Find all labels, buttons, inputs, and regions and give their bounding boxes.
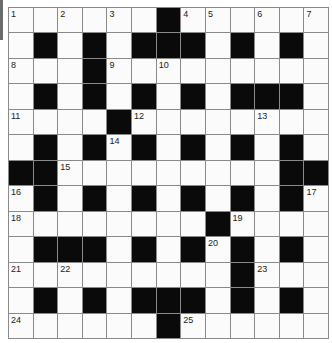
answer-cell[interactable] [304, 135, 328, 159]
answer-cell[interactable]: 7 [304, 8, 328, 32]
answer-cell[interactable]: 18 [9, 212, 33, 236]
answer-cell[interactable] [157, 212, 181, 236]
answer-cell[interactable] [107, 84, 131, 108]
answer-cell[interactable]: 17 [304, 186, 328, 210]
answer-cell[interactable] [132, 263, 156, 287]
answer-cell[interactable] [280, 212, 304, 236]
answer-cell[interactable]: 24 [9, 314, 33, 338]
answer-cell[interactable] [206, 84, 230, 108]
answer-cell[interactable] [231, 314, 255, 338]
answer-cell[interactable] [181, 59, 205, 83]
answer-cell[interactable] [280, 263, 304, 287]
answer-cell[interactable] [58, 33, 82, 57]
answer-cell[interactable] [157, 135, 181, 159]
answer-cell[interactable] [58, 288, 82, 312]
answer-cell[interactable]: 11 [9, 110, 33, 134]
answer-cell[interactable] [304, 263, 328, 287]
answer-cell[interactable] [34, 59, 58, 83]
answer-cell[interactable] [157, 161, 181, 185]
answer-cell[interactable] [255, 135, 279, 159]
answer-cell[interactable] [280, 59, 304, 83]
answer-cell[interactable] [157, 186, 181, 210]
answer-cell[interactable] [132, 8, 156, 32]
answer-cell[interactable] [255, 161, 279, 185]
answer-cell[interactable] [9, 33, 33, 57]
answer-cell[interactable] [255, 212, 279, 236]
answer-cell[interactable] [181, 212, 205, 236]
answer-cell[interactable] [107, 33, 131, 57]
answer-cell[interactable] [58, 186, 82, 210]
answer-cell[interactable]: 22 [58, 263, 82, 287]
answer-cell[interactable] [206, 59, 230, 83]
answer-cell[interactable] [255, 59, 279, 83]
answer-cell[interactable] [280, 8, 304, 32]
answer-cell[interactable]: 14 [107, 135, 131, 159]
answer-cell[interactable] [304, 237, 328, 261]
answer-cell[interactable] [304, 59, 328, 83]
answer-cell[interactable]: 16 [9, 186, 33, 210]
answer-cell[interactable] [206, 314, 230, 338]
answer-cell[interactable] [107, 288, 131, 312]
answer-cell[interactable] [132, 314, 156, 338]
answer-cell[interactable] [304, 33, 328, 57]
answer-cell[interactable] [304, 110, 328, 134]
answer-cell[interactable] [231, 161, 255, 185]
answer-cell[interactable]: 4 [181, 8, 205, 32]
answer-cell[interactable] [107, 314, 131, 338]
answer-cell[interactable] [304, 84, 328, 108]
answer-cell[interactable]: 8 [9, 59, 33, 83]
answer-cell[interactable]: 10 [157, 59, 181, 83]
answer-cell[interactable] [304, 288, 328, 312]
answer-cell[interactable] [157, 237, 181, 261]
answer-cell[interactable] [58, 212, 82, 236]
answer-cell[interactable] [206, 110, 230, 134]
answer-cell[interactable] [206, 186, 230, 210]
answer-cell[interactable] [280, 110, 304, 134]
answer-cell[interactable]: 6 [255, 8, 279, 32]
answer-cell[interactable]: 12 [132, 110, 156, 134]
answer-cell[interactable]: 1 [9, 8, 33, 32]
answer-cell[interactable] [255, 288, 279, 312]
answer-cell[interactable] [107, 263, 131, 287]
answer-cell[interactable] [157, 263, 181, 287]
answer-cell[interactable] [181, 263, 205, 287]
answer-cell[interactable] [206, 288, 230, 312]
answer-cell[interactable] [231, 8, 255, 32]
answer-cell[interactable] [255, 314, 279, 338]
answer-cell[interactable] [255, 33, 279, 57]
answer-cell[interactable] [9, 288, 33, 312]
answer-cell[interactable] [9, 84, 33, 108]
answer-cell[interactable] [157, 84, 181, 108]
answer-cell[interactable] [280, 314, 304, 338]
answer-cell[interactable] [107, 186, 131, 210]
answer-cell[interactable] [58, 110, 82, 134]
answer-cell[interactable]: 25 [181, 314, 205, 338]
answer-cell[interactable]: 23 [255, 263, 279, 287]
answer-cell[interactable] [132, 161, 156, 185]
answer-cell[interactable] [157, 110, 181, 134]
answer-cell[interactable] [34, 212, 58, 236]
answer-cell[interactable]: 21 [9, 263, 33, 287]
answer-cell[interactable] [58, 84, 82, 108]
answer-cell[interactable]: 9 [107, 59, 131, 83]
answer-cell[interactable] [58, 59, 82, 83]
answer-cell[interactable] [107, 237, 131, 261]
answer-cell[interactable] [206, 33, 230, 57]
answer-cell[interactable] [304, 314, 328, 338]
answer-cell[interactable] [34, 263, 58, 287]
answer-cell[interactable] [107, 161, 131, 185]
answer-cell[interactable] [181, 110, 205, 134]
answer-cell[interactable] [231, 110, 255, 134]
answer-cell[interactable] [83, 110, 107, 134]
answer-cell[interactable]: 13 [255, 110, 279, 134]
answer-cell[interactable] [58, 314, 82, 338]
answer-cell[interactable] [34, 314, 58, 338]
answer-cell[interactable] [9, 135, 33, 159]
answer-cell[interactable] [255, 186, 279, 210]
answer-cell[interactable] [132, 212, 156, 236]
answer-cell[interactable] [9, 237, 33, 261]
answer-cell[interactable] [83, 314, 107, 338]
answer-cell[interactable] [231, 59, 255, 83]
answer-cell[interactable] [107, 212, 131, 236]
answer-cell[interactable]: 5 [206, 8, 230, 32]
